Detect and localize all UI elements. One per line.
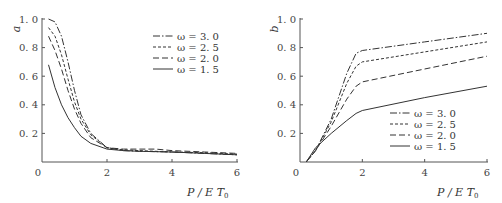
legend-label: ω = 2. 5 [177,42,219,53]
legend-label: ω = 3. 0 [414,108,456,119]
chart-panel-right: 0. 20. 40. 60. 81. 00246bP / E T0ω = 3. … [268,14,490,201]
y-tick-label: 0. 2 [277,128,296,139]
x-tick-label: 0 [35,167,41,178]
x-tick-label: 2 [104,167,110,178]
y-tick-label: 0. 4 [277,99,296,110]
x-tick-label: 6 [234,167,240,178]
y-axis-label: a [10,26,23,33]
legend-label: ω = 1. 5 [177,64,219,75]
series-line [306,33,487,162]
legend-label: ω = 2. 5 [414,119,456,130]
legend-label: ω = 2. 0 [177,53,219,64]
chart-canvas: 0. 20. 40. 60. 81. 00246aP / E T0ω = 3. … [0,0,502,203]
legend-label: ω = 2. 0 [414,130,456,141]
series-line [306,42,487,162]
y-axis-label: b [268,25,281,32]
chart-panel-left: 0. 20. 40. 60. 81. 00246aP / E T0ω = 3. … [10,14,240,201]
y-tick-label: 0. 8 [19,42,38,53]
y-tick-label: 1. 0 [277,14,296,25]
x-tick-label: 2 [359,167,365,178]
series-line [49,65,238,155]
x-tick-label: 4 [169,167,175,178]
y-tick-label: 0. 4 [19,99,38,110]
x-axis-label: P / E T0 [436,186,478,200]
y-tick-label: 0. 2 [19,128,38,139]
y-tick-label: 0. 6 [277,71,296,82]
y-tick-label: 0. 8 [277,42,296,53]
y-tick-label: 0. 6 [19,71,38,82]
x-tick-label: 4 [421,167,427,178]
y-tick-label: 1. 0 [19,14,38,25]
legend-label: ω = 3. 0 [177,31,219,42]
x-tick-label: 6 [484,167,490,178]
legend-label: ω = 1. 5 [414,141,456,152]
x-tick-label: 0 [293,167,299,178]
x-axis-label: P / E T0 [186,186,228,200]
